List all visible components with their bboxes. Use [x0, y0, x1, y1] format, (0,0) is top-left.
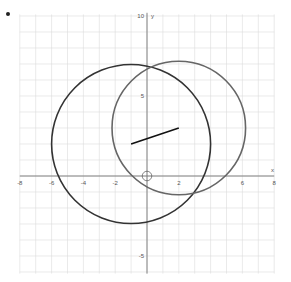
x-tick-label: -4	[81, 180, 87, 186]
axes	[20, 13, 274, 274]
x-tick-label: -8	[17, 180, 23, 186]
x-axis-label: x	[271, 167, 274, 173]
y-axis-label: y	[151, 13, 154, 19]
x-tick-label: -2	[113, 180, 119, 186]
x-tick-label: 6	[241, 180, 245, 186]
coordinate-plane: -8-6-4-2268105-5 x y	[0, 0, 291, 282]
y-tick-label: -5	[139, 253, 145, 259]
plotted-shapes	[52, 61, 246, 223]
x-tick-label: 8	[273, 180, 277, 186]
line-segment	[131, 128, 179, 144]
y-tick-label: 10	[137, 13, 144, 19]
x-tick-label: -6	[49, 180, 55, 186]
x-tick-label: 2	[177, 180, 181, 186]
